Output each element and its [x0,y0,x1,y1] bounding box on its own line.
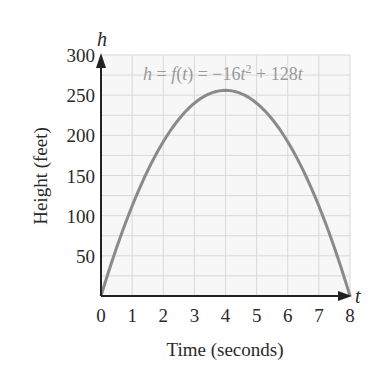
x-tick-label: 7 [314,305,324,326]
x-axis-title: Time (seconds) [167,339,284,361]
x-variable-label: t [355,285,361,307]
x-tick-label: 8 [345,305,355,326]
y-axis-title: Height (feet) [30,127,52,225]
x-tick-label: 4 [221,305,231,326]
equation-annotation: h = f(t) = −16t2 + 128t [143,62,304,85]
x-tick-labels: 012345678 [96,305,355,326]
x-tick-label: 6 [283,305,293,326]
x-tick-label: 0 [96,305,106,326]
y-tick-label: 100 [67,206,96,227]
y-tick-label: 300 [67,45,96,66]
x-tick-label: 2 [159,305,169,326]
y-tick-label: 250 [67,85,96,106]
y-tick-label: 200 [67,125,96,146]
chart: 012345678 50100150200250300 h t Time (se… [0,0,380,371]
y-tick-labels: 50100150200250300 [67,45,96,267]
y-tick-label: 150 [67,166,96,187]
x-tick-label: 1 [127,305,137,326]
x-tick-label: 3 [190,305,200,326]
y-tick-label: 50 [76,246,95,267]
x-tick-label: 5 [252,305,262,326]
y-variable-label: h [97,28,107,50]
